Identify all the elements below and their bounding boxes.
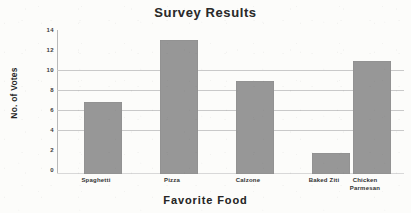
y-tick-label: 4 [36,127,54,133]
gridline-10 [57,70,404,71]
x-tick-label-spaghetti: Spaghetti [56,176,136,184]
y-tick-label: 8 [36,87,54,93]
bar-calzone [236,81,274,174]
y-tick-label: 14 [36,27,54,33]
y-axis-title: No. of Votes [9,57,19,129]
bar-chart-figure: Survey Results No. of Votes 14 12 10 8 6… [0,0,411,213]
chart-title: Survey Results [0,5,411,20]
bar-chicken-parmesan [353,61,391,174]
x-tick-label-chicken-parmesan: Chicken Parmesan [338,176,392,192]
y-tick-label: 0 [36,167,54,173]
x-tick-label-calzone: Calzone [208,176,288,184]
bar-baked-ziti [312,153,350,174]
bar-spaghetti [84,102,122,174]
y-axis-tick-labels: 14 12 10 8 6 4 2 0 [32,30,54,174]
y-tick-label: 6 [36,107,54,113]
y-tick-label: 10 [36,67,54,73]
plot-area [57,30,404,174]
gridline-8 [57,90,404,91]
y-tick-label: 12 [36,47,54,53]
x-tick-label-pizza: Pizza [132,176,212,184]
x-axis-title: Favorite Food [0,194,411,206]
y-tick-label: 2 [36,147,54,153]
bar-pizza [160,40,198,174]
